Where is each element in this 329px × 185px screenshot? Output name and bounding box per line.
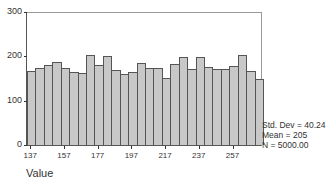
y-tick-mark — [24, 56, 27, 57]
x-tick-mark — [233, 146, 234, 149]
x-tick-mark — [131, 146, 132, 149]
x-tick-mark — [199, 146, 200, 149]
summary-statistics: Std. Dev = 40.24 Mean = 205 N = 5000.00 — [262, 120, 326, 150]
x-tick-label: 257 — [221, 151, 245, 160]
x-tick-mark — [64, 146, 65, 149]
x-tick-label: 177 — [86, 151, 110, 160]
x-tick-mark — [30, 146, 31, 149]
y-tick-mark — [24, 145, 27, 146]
x-axis-title: Value — [26, 167, 53, 179]
std-dev-label: Std. Dev = 40.24 — [262, 120, 326, 130]
y-tick-mark — [24, 12, 27, 13]
x-tick-mark — [165, 146, 166, 149]
mean-label: Mean = 205 — [262, 130, 326, 140]
x-tick-mark — [98, 146, 99, 149]
y-tick-label: 200 — [0, 50, 22, 60]
x-tick-label: 157 — [52, 151, 76, 160]
x-tick-label: 137 — [18, 151, 42, 160]
y-tick-label: 300 — [0, 6, 22, 16]
x-tick-label: 237 — [187, 151, 211, 160]
x-tick-label: 197 — [119, 151, 143, 160]
y-tick-mark — [24, 101, 27, 102]
x-tick-label: 217 — [153, 151, 177, 160]
y-tick-label: 100 — [0, 95, 22, 105]
n-label: N = 5000.00 — [262, 140, 326, 150]
histogram-plot-area — [26, 12, 262, 146]
y-tick-label: 0 — [0, 139, 22, 149]
